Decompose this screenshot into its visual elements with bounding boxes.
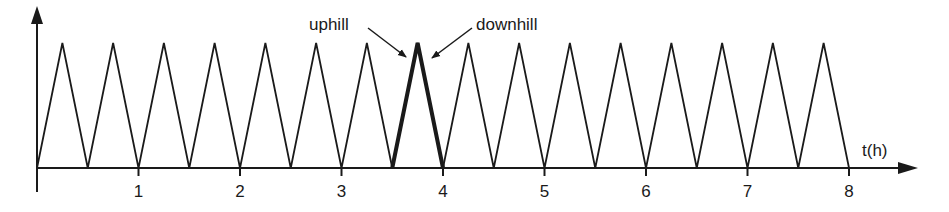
sawtooth-line — [37, 43, 849, 168]
downhill-label: downhill — [476, 15, 537, 34]
x-axis-arrow-icon — [898, 162, 918, 174]
x-axis-label: t(h) — [862, 141, 888, 160]
x-tick-label: 2 — [235, 182, 244, 201]
x-tick-label: 6 — [641, 182, 650, 201]
uphill-label: uphill — [309, 15, 349, 34]
sawtooth-series — [37, 43, 849, 168]
x-tick-label: 4 — [438, 182, 447, 201]
highlighted-cycle-line — [392, 43, 443, 168]
x-tick-label: 8 — [844, 182, 853, 201]
uphill-arrow-icon — [368, 28, 406, 57]
annotations: uphill downhill — [309, 15, 537, 58]
x-tick-label: 3 — [337, 182, 346, 201]
y-axis-arrow-icon — [31, 6, 43, 24]
x-ticks: 12345678 — [134, 168, 854, 201]
highlighted-cycle — [392, 43, 443, 168]
x-tick-label: 1 — [134, 182, 143, 201]
chart-canvas: 12345678 t(h) uphill downhill — [0, 0, 949, 212]
x-tick-label: 5 — [540, 182, 549, 201]
x-tick-label: 7 — [743, 182, 752, 201]
x-axis — [37, 162, 918, 174]
